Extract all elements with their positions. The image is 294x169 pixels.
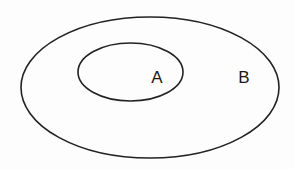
set-b-label: B xyxy=(238,68,249,87)
set-a-label: A xyxy=(151,68,163,87)
diagram-canvas: A B xyxy=(0,0,294,169)
set-a-ellipse xyxy=(78,43,183,101)
set-b-ellipse xyxy=(21,17,279,158)
venn-diagram: A B xyxy=(0,0,294,169)
